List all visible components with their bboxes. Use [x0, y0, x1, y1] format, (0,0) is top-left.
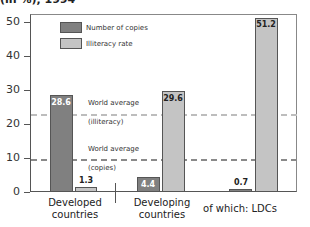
world-average-copies-sublabel: (copies) [88, 164, 116, 173]
y-tick-label: 20 [0, 117, 20, 130]
legend-swatch-copies [60, 22, 82, 33]
category-developed: Developed countries [45, 197, 105, 221]
avg-label-line1: World average [88, 99, 139, 108]
legend-swatch-illiteracy [60, 38, 82, 49]
y-tick [24, 90, 30, 91]
world-average-illiteracy-label: World average [88, 99, 139, 108]
y-tick-label: 40 [0, 49, 20, 62]
bar-developed-illiteracy [75, 187, 97, 192]
y-tick [24, 158, 30, 159]
category-developed-line2: countries [45, 209, 105, 221]
chart-title: (in %), 1994 [0, 0, 75, 6]
y-tick-label: 50 [0, 15, 20, 28]
category-developed-line1: Developed [45, 197, 105, 209]
category-ldcs: of which: LDCs [200, 203, 280, 215]
y-tick-label: 10 [0, 151, 20, 164]
value-developing-illiteracy: 29.6 [160, 94, 186, 103]
value-developed-illiteracy: 1.3 [73, 176, 99, 185]
value-developing-copies: 4.4 [135, 180, 161, 189]
y-tick [24, 192, 30, 193]
legend-label-illiteracy: Illiteracy rate [86, 40, 133, 48]
y-tick [24, 22, 30, 23]
category-separator [115, 183, 116, 203]
value-ldcs-copies: 0.7 [228, 178, 254, 187]
y-tick [24, 56, 30, 57]
category-developing-line2: countries [132, 209, 192, 221]
bar-developed-copies [50, 95, 73, 192]
y-tick [24, 124, 30, 125]
value-developed-copies: 28.6 [48, 98, 74, 107]
legend-label-copies: Number of copies [86, 24, 148, 32]
bar-developing-illiteracy [162, 91, 185, 192]
value-ldcs-illiteracy: 51.2 [253, 20, 279, 29]
category-developing-line1: Developing [132, 197, 192, 209]
world-average-copies-label: World average [88, 145, 139, 154]
category-developing: Developing countries [132, 197, 192, 221]
bar-ldcs-illiteracy [255, 18, 278, 192]
bar-ldcs-copies [229, 189, 252, 192]
y-tick-label: 0 [0, 185, 20, 198]
world-average-illiteracy-sublabel: (illiteracy) [88, 118, 123, 127]
y-tick-label: 30 [0, 83, 20, 96]
